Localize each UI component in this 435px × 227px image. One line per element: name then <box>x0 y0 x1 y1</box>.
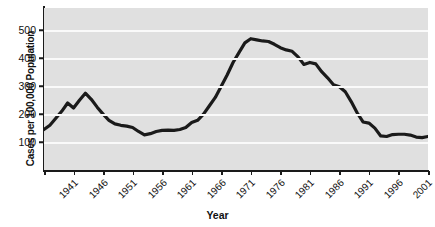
x-tick-label-1991: 1991 <box>352 177 376 201</box>
y-tick-label-500: 500 <box>18 24 36 36</box>
x-tick-label-1986: 1986 <box>322 177 346 201</box>
y-tick-mark-100 <box>39 141 44 143</box>
x-tick-mark-1956 <box>133 171 135 175</box>
x-tick-label-1951: 1951 <box>116 177 140 201</box>
x-tick-label-1961: 1961 <box>175 177 199 201</box>
x-tick-mark-1946 <box>74 171 76 175</box>
x-tick-mark-1981 <box>280 171 282 175</box>
y-tick-label-300: 300 <box>18 80 36 92</box>
x-tick-mark-1986 <box>310 171 312 175</box>
x-tick-label-1981: 1981 <box>293 177 317 201</box>
x-tick-mark-2006 <box>428 171 430 175</box>
y-tick-mark-300 <box>39 85 44 87</box>
y-tick-mark-200 <box>39 113 44 115</box>
x-tick-label-1966: 1966 <box>204 177 228 201</box>
x-tick-label-1946: 1946 <box>86 177 110 201</box>
x-tick-label-1941: 1941 <box>57 177 81 201</box>
data-series-line <box>44 8 428 170</box>
x-tick-label-1956: 1956 <box>145 177 169 201</box>
line-chart: Cases per 100,000 Population 10020030040… <box>0 0 435 227</box>
x-axis-title: Year <box>0 209 435 221</box>
y-tick-mark-400 <box>39 58 44 60</box>
gridline-400 <box>44 58 428 60</box>
y-tick-label-200: 200 <box>18 108 36 120</box>
y-tick-label-400: 400 <box>18 52 36 64</box>
gridline-500 <box>44 30 428 32</box>
y-axis-tick-labels: 100200300400500 <box>0 0 42 227</box>
x-tick-mark-1961 <box>162 171 164 175</box>
y-tick-mark-500 <box>39 30 44 32</box>
x-axis-line <box>43 170 429 172</box>
x-tick-mark-2001 <box>398 171 400 175</box>
gridline-200 <box>44 114 428 116</box>
plot-area <box>44 8 428 170</box>
x-tick-label-1976: 1976 <box>263 177 287 201</box>
x-tick-mark-1951 <box>103 171 105 175</box>
x-tick-label-2001: 2001 <box>411 177 435 201</box>
gridline-100 <box>44 142 428 144</box>
x-tick-label-1971: 1971 <box>234 177 258 201</box>
x-tick-mark-1941 <box>44 171 46 175</box>
x-tick-mark-1991 <box>339 171 341 175</box>
x-tick-label-1996: 1996 <box>381 177 405 201</box>
gridline-300 <box>44 86 428 88</box>
x-tick-mark-1966 <box>192 171 194 175</box>
x-tick-mark-1996 <box>369 171 371 175</box>
x-tick-mark-1976 <box>251 171 253 175</box>
y-tick-label-100: 100 <box>18 136 36 148</box>
x-tick-mark-1971 <box>221 171 223 175</box>
